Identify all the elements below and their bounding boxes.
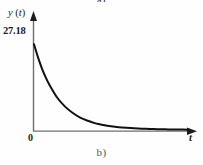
x-axis-label: t — [189, 133, 192, 144]
origin-label: 0 — [28, 133, 33, 143]
figure-caption-b: b) — [0, 147, 203, 158]
y-axis-label-arg: (t) — [15, 7, 25, 18]
y-axis-arrowhead — [30, 11, 37, 21]
y-axis-label: y (t) — [8, 8, 25, 19]
decay-curve — [34, 44, 188, 129]
figure-exponential-decay: a) y (t) 27.18 0 t b) — [0, 0, 203, 165]
y-axis-label-arg-t: t — [19, 7, 22, 18]
initial-value-label: 27.18 — [3, 26, 26, 37]
